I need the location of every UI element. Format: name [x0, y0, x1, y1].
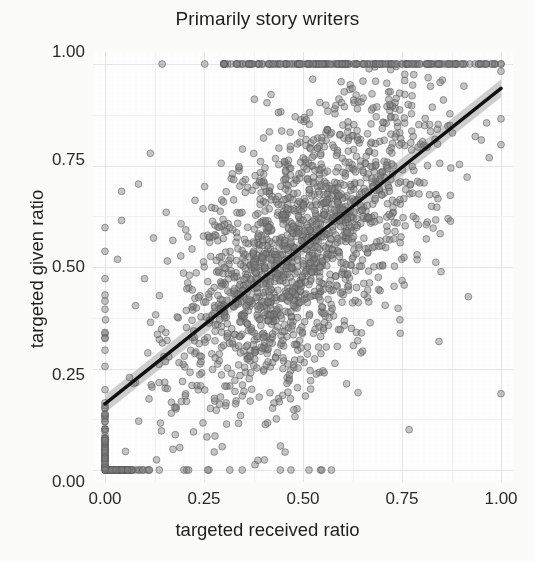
y-axis-tick-labels: 1.00 0.75 0.50 0.25 0.00 [23, 52, 85, 482]
x-tick-label: 1.00 [461, 489, 535, 509]
regression-line [93, 52, 513, 482]
x-tick-label: 0.00 [65, 489, 145, 509]
scatter-plot-figure: Primarily story writers targeted given r… [0, 0, 535, 562]
y-tick-label: 0.75 [25, 150, 85, 170]
y-tick-label: 0.25 [25, 365, 85, 385]
y-tick-label: 0.50 [25, 257, 85, 277]
chart-title: Primarily story writers [0, 8, 535, 30]
plot-panel [93, 52, 513, 482]
x-tick-label: 0.75 [362, 489, 442, 509]
x-axis-tick-labels: 0.00 0.25 0.50 0.75 1.00 [93, 489, 513, 513]
x-tick-label: 0.50 [263, 489, 343, 509]
y-tick-label: 1.00 [25, 42, 85, 62]
x-axis-title: targeted received ratio [0, 519, 535, 541]
x-tick-label: 0.25 [164, 489, 244, 509]
